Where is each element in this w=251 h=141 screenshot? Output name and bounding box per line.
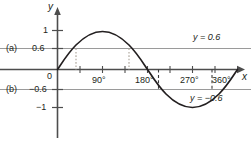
case-label-a: (a): [6, 44, 17, 53]
x-tick-label-180: 180°: [135, 76, 154, 85]
annotation-y-neg-0.6: y = −0.6: [190, 94, 223, 103]
y-tick-label-0.6: 0.6: [32, 44, 45, 53]
y-tick-label-neg-1: −1: [36, 103, 46, 112]
x-axis-label: x: [242, 72, 247, 82]
x-tick-label-90: 90°: [92, 76, 106, 85]
y-tick-label-neg-0.6: −0.6: [29, 85, 47, 94]
sine-graph-figure: y x 1 0.6 −0.6 −1 0 90° 180° 270° 360° (…: [0, 0, 251, 141]
x-tick-label-270: 270°: [180, 76, 199, 85]
y-axis-label: y: [48, 2, 53, 12]
x-tick-label-360: 360°: [212, 76, 231, 85]
y-axis-arrow: [54, 7, 61, 15]
origin-label: 0: [47, 72, 52, 81]
sine-graph-canvas: [0, 0, 251, 141]
annotation-y-0.6: y = 0.6: [193, 33, 220, 42]
y-tick-label-1: 1: [43, 26, 48, 35]
case-label-b: (b): [6, 85, 17, 94]
